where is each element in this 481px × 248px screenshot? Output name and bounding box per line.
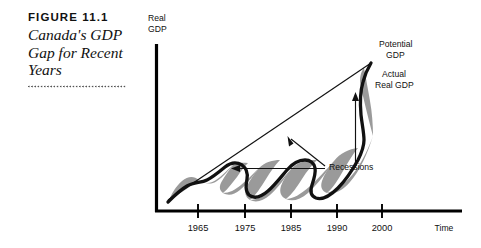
y-axis-label-line-1: Real [148,13,166,23]
annotation-potential-gdp-line-2: GDP [386,50,405,60]
tick-label-2000: 2000 [372,223,393,233]
x-axis-tick-labels: 1965 1975 1985 1990 2000 [188,223,393,233]
annotation-actual-real-gdp-line-1: Actual [382,69,406,79]
tick-label-1975: 1975 [235,223,256,233]
annotation-potential-gdp-line-1: Potential [379,39,413,49]
actual-real-gdp-leader-arrow [352,92,359,166]
annotation-actual-real-gdp-line-2: Real GDP [375,80,414,90]
x-axis-label: Time [435,223,454,233]
tick-label-1985: 1985 [281,223,302,233]
annotation-recessions: Recessions [329,162,373,172]
figure-page: FIGURE 11.1 Canada's GDP Gap for Recent … [0,0,481,248]
gdp-gap-chart: 1965 1975 1985 1990 2000 Real GDP Time P… [0,0,481,248]
potential-gdp-line [168,63,371,200]
tick-label-1990: 1990 [327,223,348,233]
y-axis-label-line-2: GDP [148,24,167,34]
tick-label-1965: 1965 [188,223,209,233]
